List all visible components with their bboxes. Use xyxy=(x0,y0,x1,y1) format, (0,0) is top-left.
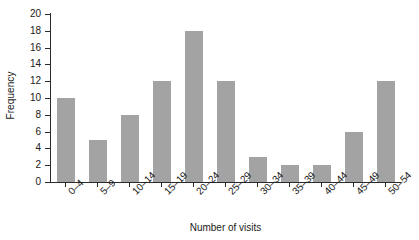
y-axis-title-text: Frequency xyxy=(5,71,16,119)
bar-chart: Frequency 02468101214161820 0–45–910–141… xyxy=(0,0,419,240)
x-axis-tick-mark xyxy=(225,183,226,187)
x-axis-tick-mark xyxy=(257,183,258,187)
bar-slot xyxy=(242,14,274,182)
bar-slot xyxy=(50,14,82,182)
bar[interactable] xyxy=(57,98,75,182)
x-axis-tick-mark xyxy=(321,183,322,187)
y-axis-tick-label: 6 xyxy=(35,125,41,138)
bar-slot xyxy=(178,14,210,182)
bar-slot xyxy=(370,14,402,182)
y-axis-tick-label: 4 xyxy=(35,141,41,154)
y-axis-tick-label: 16 xyxy=(30,41,41,54)
y-axis-title: Frequency xyxy=(0,0,20,190)
y-axis-tick-label: 0 xyxy=(35,175,41,188)
bar-slot xyxy=(306,14,338,182)
x-axis-tick-mark xyxy=(289,183,290,187)
x-axis-tick-mark xyxy=(193,183,194,187)
x-axis-tick-mark xyxy=(385,183,386,187)
plot-area xyxy=(50,14,400,182)
y-axis-tick-label: 14 xyxy=(30,57,41,70)
y-axis-tick-label: 8 xyxy=(35,108,41,121)
bar-slot xyxy=(114,14,146,182)
x-axis-tick-mark xyxy=(129,183,130,187)
x-axis-tick-mark xyxy=(353,183,354,187)
bar[interactable] xyxy=(153,81,171,182)
y-axis-tick-label: 10 xyxy=(30,91,41,104)
y-axis-tick-label: 12 xyxy=(30,74,41,87)
bar-slot xyxy=(338,14,370,182)
bar-slot xyxy=(274,14,306,182)
bar[interactable] xyxy=(185,31,203,182)
bar[interactable] xyxy=(89,140,107,182)
bar-slot xyxy=(82,14,114,182)
bar-slot xyxy=(146,14,178,182)
bar[interactable] xyxy=(217,81,235,182)
y-axis-tick-label: 20 xyxy=(30,7,41,20)
x-axis-tick-mark xyxy=(161,183,162,187)
x-axis-tick-mark xyxy=(97,183,98,187)
x-axis-tick-mark xyxy=(65,183,66,187)
bar-slot xyxy=(210,14,242,182)
y-axis-tick-label: 18 xyxy=(30,24,41,37)
x-axis-title: Number of visits xyxy=(50,222,401,233)
bar[interactable] xyxy=(377,81,395,182)
bar[interactable] xyxy=(121,115,139,182)
y-axis-tick-label: 2 xyxy=(35,158,41,171)
